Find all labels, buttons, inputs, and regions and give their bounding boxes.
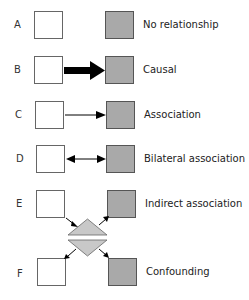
indirect-factor-icon (66, 216, 109, 235)
relationship-arrows (0, 0, 249, 300)
association-arrow-icon (65, 111, 106, 119)
causal-arrow-icon (64, 61, 105, 80)
confounder-icon (64, 240, 109, 259)
bilateral-arrow-icon (66, 155, 106, 163)
